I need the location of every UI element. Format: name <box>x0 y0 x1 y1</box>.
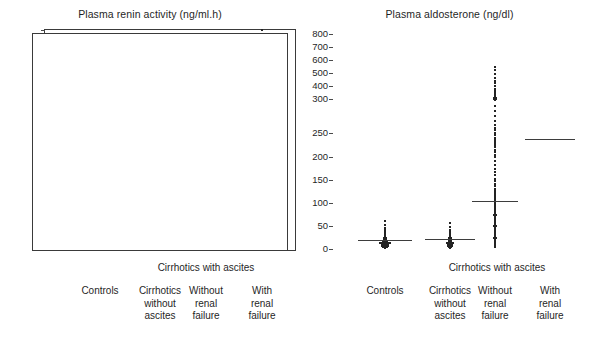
median-line <box>358 240 412 241</box>
y-tick-mark <box>329 180 333 181</box>
y-tick-mark <box>329 203 333 204</box>
y-tick-mark <box>329 34 333 35</box>
y-tick-mark <box>329 157 333 158</box>
data-point <box>494 77 496 79</box>
data-point <box>494 110 496 112</box>
median-line <box>525 139 575 140</box>
data-point <box>494 134 496 136</box>
y-tick-label: 300 <box>312 94 328 104</box>
x-axis-label-3: With renal failure <box>519 285 581 323</box>
data-point <box>389 242 391 244</box>
y-tick-label: 400 <box>312 81 328 91</box>
y-tick-mark <box>329 60 333 61</box>
median-line <box>472 201 518 202</box>
data-point <box>494 180 496 182</box>
y-tick-label: 600 <box>312 55 328 65</box>
y-tick-label: 700 <box>312 42 328 52</box>
data-point <box>494 156 496 158</box>
data-point <box>494 246 496 248</box>
data-point <box>449 222 451 224</box>
data-point <box>386 246 388 248</box>
x-axis-label-0: Controls <box>354 285 416 298</box>
y-tick-label: 100 <box>312 198 328 208</box>
y-tick-mark <box>329 47 333 48</box>
data-point <box>494 164 496 166</box>
y-tick-mark <box>329 73 333 74</box>
data-point <box>494 120 496 122</box>
data-point <box>494 105 496 107</box>
data-point <box>494 124 496 126</box>
data-point <box>494 146 496 148</box>
data-point <box>494 168 496 170</box>
data-point <box>494 69 496 71</box>
data-point <box>494 99 496 101</box>
y-tick-mark <box>329 99 333 100</box>
data-point <box>384 220 386 222</box>
panel-title-aldosterone: Plasma aldosterone (ng/dl) <box>300 8 599 20</box>
data-point <box>449 247 451 249</box>
y-tick-mark <box>329 226 333 227</box>
y-tick-label: 500 <box>312 68 328 78</box>
dot-plot-figure: Plasma renin activity (ng/ml.h) 05101520… <box>0 0 599 341</box>
group-label-cirrhotics-with-ascites: Cirrhotics with ascites <box>417 262 577 274</box>
y-tick-label: 150 <box>312 175 328 185</box>
median-line <box>425 239 475 240</box>
data-point <box>494 174 496 176</box>
y-tick-label: 200 <box>312 152 328 162</box>
y-tick-label: 0 <box>323 244 328 254</box>
data-point <box>494 85 496 87</box>
plot-area-aldosterone <box>32 33 288 251</box>
y-tick-mark <box>329 249 333 250</box>
data-point <box>384 224 386 226</box>
data-point <box>494 151 496 153</box>
data-point <box>494 171 496 173</box>
data-point <box>494 115 496 117</box>
y-tick-mark <box>329 86 333 87</box>
x-axis-label-2: Without renal failure <box>464 285 526 323</box>
data-point <box>494 66 496 68</box>
y-tick-label: 50 <box>317 221 328 231</box>
panel-plasma-aldosterone: Plasma aldosterone (ng/dl) 0501001502002… <box>0 0 599 341</box>
data-point <box>494 185 496 187</box>
data-point <box>384 247 386 249</box>
y-tick-label: 250 <box>312 128 328 138</box>
data-point <box>494 160 496 162</box>
data-point <box>494 82 496 84</box>
y-tick-mark <box>329 133 333 134</box>
y-tick-label: 800 <box>312 29 328 39</box>
data-point <box>494 129 496 131</box>
data-point <box>494 73 496 75</box>
data-point <box>449 226 451 228</box>
